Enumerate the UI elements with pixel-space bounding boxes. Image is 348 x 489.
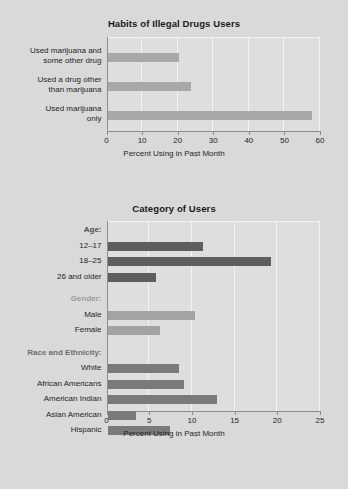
bar-18-25 [108, 257, 271, 266]
category-label: White [81, 363, 101, 373]
tick-mark-10 [192, 412, 193, 415]
tick-mark-60 [320, 132, 321, 135]
bar-used-marijuana-and-some-other-drug [108, 53, 179, 62]
category-label: Used marijuana andsome other drug [30, 46, 102, 66]
tick-label-50: 50 [272, 136, 296, 145]
tick-label-60: 60 [308, 136, 332, 145]
category-label: 12–17 [79, 241, 101, 251]
category-label: Asian American [46, 410, 102, 420]
x-axis-title: Percent Using in Past Month [0, 429, 348, 438]
bar-african-americans [108, 380, 185, 389]
tick-mark-20 [277, 412, 278, 415]
tick-label-20: 20 [166, 136, 190, 145]
bar-26-and-older [108, 273, 157, 282]
gridline-60 [319, 38, 320, 131]
tick-mark-10 [142, 132, 143, 135]
category-label: Female [75, 325, 102, 335]
tick-mark-40 [249, 132, 250, 135]
bar-12-17 [108, 242, 204, 251]
tick-mark-25 [320, 412, 321, 415]
tick-label-40: 40 [237, 136, 261, 145]
category-label: Used marijuanaonly [45, 104, 101, 124]
tick-label-25: 25 [308, 416, 332, 425]
tick-mark-50 [284, 132, 285, 135]
category-chart: Category of Users Age:12–1718–2526 and o… [0, 203, 348, 484]
figure-page: Habits of Illegal Drugs Users Used marij… [0, 0, 348, 489]
tick-label-30: 30 [201, 136, 225, 145]
habits-chart: Habits of Illegal Drugs Users Used marij… [0, 18, 348, 164]
tick-mark-5 [149, 412, 150, 415]
tick-mark-0 [107, 132, 108, 135]
bar-female [108, 326, 160, 335]
bar-american-indian [108, 395, 217, 404]
habits-chart-title: Habits of Illegal Drugs Users [0, 18, 348, 29]
category-label: Male [84, 310, 101, 320]
tick-label-10: 10 [180, 416, 204, 425]
group-label: Age: [84, 225, 102, 234]
tick-label-0: 0 [95, 416, 119, 425]
tick-label-10: 10 [130, 136, 154, 145]
group-label: Gender: [71, 294, 102, 303]
habits-plot-area: Used marijuana andsome other drugUsed a … [0, 29, 348, 164]
gridline-15 [234, 222, 235, 411]
tick-label-0: 0 [95, 136, 119, 145]
category-label: African Americans [37, 379, 101, 389]
category-plot-area: Age:12–1718–2526 and olderGender:MaleFem… [0, 214, 348, 484]
bar-used-marijuana-only [108, 111, 313, 120]
tick-mark-20 [178, 132, 179, 135]
tick-mark-0 [107, 412, 108, 415]
category-label: American Indian [44, 394, 102, 404]
category-label: 26 and older [57, 272, 101, 282]
tick-label-20: 20 [265, 416, 289, 425]
tick-label-5: 5 [137, 416, 161, 425]
category-chart-title: Category of Users [0, 203, 348, 214]
x-axis-title: Percent Using in Past Month [0, 149, 348, 158]
category-label: 18–25 [79, 256, 101, 266]
bar-used-a-drug-other-than-marijuana [108, 82, 192, 91]
gridline-25 [319, 222, 320, 411]
tick-mark-30 [213, 132, 214, 135]
tick-label-15: 15 [223, 416, 247, 425]
bar-white [108, 364, 180, 373]
tick-mark-15 [235, 412, 236, 415]
group-label: Race and Ethnicity: [27, 348, 101, 357]
category-label: Used a drug otherthan marijuana [37, 75, 101, 95]
x-axis-line [107, 411, 322, 412]
bar-male [108, 311, 196, 320]
gridline-20 [276, 222, 277, 411]
